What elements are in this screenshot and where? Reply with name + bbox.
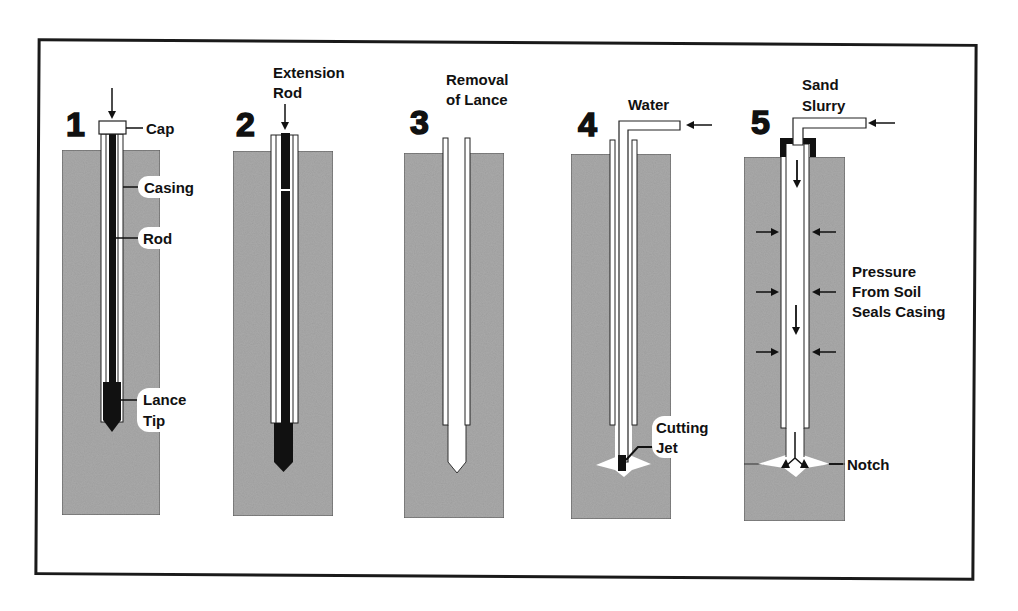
extension-rod-title-line2: Rod	[273, 84, 302, 101]
removal-title-line1: Removal	[446, 71, 509, 88]
pressure-label-line2: From Soil	[852, 283, 921, 300]
cap-label: Cap	[146, 120, 174, 137]
water-label: Water	[628, 96, 669, 113]
step-2: 2 Extension Rod	[233, 64, 345, 516]
casing-wall-right	[632, 140, 637, 425]
rod-label: Rod	[143, 230, 172, 247]
lance-tip-label-line1: Lance	[143, 391, 186, 408]
cutting-jet-label-line1: Cutting	[656, 419, 708, 436]
step-1-number: 1	[66, 105, 85, 143]
removal-title-line2: of Lance	[446, 91, 508, 108]
casing-wall-left	[781, 144, 786, 428]
extension-rod	[281, 133, 290, 189]
casing-wall-left	[610, 140, 615, 425]
pressure-label-line1: Pressure	[852, 263, 916, 280]
lance-tip	[274, 423, 293, 472]
step-2-number: 2	[236, 105, 255, 143]
sand-slurry-title-line2: Slurry	[802, 97, 846, 114]
casing-wall-right	[465, 138, 470, 425]
cutting-jet-label-line2: Jet	[656, 439, 678, 456]
empty-hole	[448, 424, 466, 473]
step-4-number: 4	[578, 105, 597, 143]
casing-label: Casing	[144, 179, 194, 196]
step-1: 1 Cap Casing Rod Lance Tip	[62, 88, 208, 515]
extension-rod-title-line1: Extension	[273, 64, 345, 81]
rod	[281, 191, 290, 424]
rod	[109, 134, 116, 384]
sand-slurry-title-line1: Sand	[802, 76, 839, 93]
notch-label: Notch	[847, 456, 890, 473]
installation-diagram: 1 Cap Casing Rod Lance Tip 2 Extension R…	[0, 0, 1018, 611]
pressure-label-line3: Seals Casing	[852, 303, 945, 320]
step-5: 5 Sand Slurry Pressure From Soil Seals C…	[744, 76, 945, 521]
casing-wall-left	[443, 138, 448, 425]
step-4: 4 Water Cutting Jet	[571, 96, 716, 519]
step-5-number: 5	[751, 103, 770, 141]
cap	[99, 121, 126, 134]
cutting-jet	[618, 455, 626, 471]
step-3: 3 Removal of Lance	[404, 71, 509, 518]
casing-wall-right	[804, 144, 809, 428]
step-3-number: 3	[410, 103, 429, 141]
lance-tip-label-line2: Tip	[143, 412, 165, 429]
